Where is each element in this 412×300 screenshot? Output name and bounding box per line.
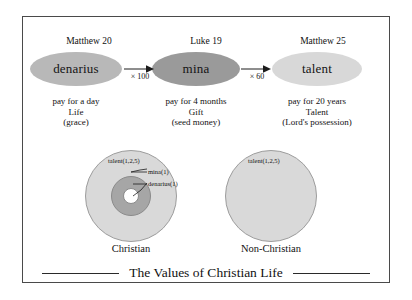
caption-non-christian: Non-Christian [221, 243, 321, 254]
description-talent-line3: (Lord's possession) [258, 117, 376, 128]
description-denarius-line3: (grace) [21, 117, 131, 128]
description-mina: pay for 4 months Gift (seed money) [141, 96, 251, 128]
description-talent: pay for 20 years Talent (Lord's possessi… [258, 96, 376, 128]
coin-label-talent: talent [302, 61, 332, 77]
figure-title-band: The Values of Christian Life [22, 262, 390, 284]
label-talent-christian: talent(1,2,5) [108, 157, 140, 164]
figure-title: The Values of Christian Life [129, 265, 282, 281]
coin-node-denarius: denarius [30, 52, 122, 86]
title-rule-left [42, 273, 119, 274]
coin-label-mina: mina [183, 61, 210, 77]
description-mina-line3: (seed money) [141, 117, 251, 128]
description-talent-line1: pay for 20 years [258, 96, 376, 107]
reference-mina: Luke 19 [151, 36, 261, 47]
reference-denarius: Matthew 20 [34, 36, 144, 47]
title-rule-right [293, 273, 370, 274]
multiplier-60: × 60 [239, 72, 275, 81]
coin-node-mina: mina [152, 52, 240, 86]
description-denarius-line2: Life [21, 107, 131, 118]
figure-canvas: Matthew 20 Luke 19 Matthew 25 denarius m… [0, 0, 412, 300]
label-denarius-christian: denarius(1) [148, 180, 178, 187]
description-denarius: pay for a day Life (grace) [21, 96, 131, 128]
circle-denarius-christian [123, 188, 139, 204]
label-mina-christian: mina(1) [148, 168, 169, 175]
coin-node-talent: talent [272, 52, 362, 86]
description-talent-line2: Talent [258, 107, 376, 118]
multiplier-100: × 100 [122, 72, 158, 81]
description-mina-line1: pay for 4 months [141, 96, 251, 107]
caption-christian: Christian [81, 243, 181, 254]
reference-talent: Matthew 25 [268, 36, 378, 47]
coin-label-denarius: denarius [53, 61, 99, 77]
description-mina-line2: Gift [141, 107, 251, 118]
description-denarius-line1: pay for a day [21, 96, 131, 107]
label-talent-non-christian: talent(1,2,5) [248, 157, 280, 164]
